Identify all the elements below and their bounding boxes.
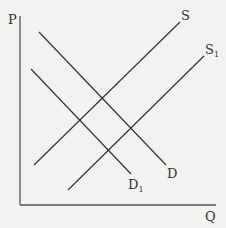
supply-curve-s-label: S	[181, 8, 190, 23]
supply-curve-s	[34, 22, 180, 165]
supply-curve-s1	[68, 56, 204, 190]
demand-curve-d1-label: D1	[128, 177, 144, 194]
x-axis-label: Q	[205, 209, 216, 224]
supply-curve-s1-label: S1	[205, 42, 219, 59]
supply-demand-diagram: P Q D D1 S S1	[0, 0, 226, 228]
demand-curve-d-label: D	[167, 166, 177, 181]
y-axis-label: P	[8, 12, 17, 27]
